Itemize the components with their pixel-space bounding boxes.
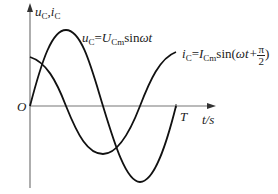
- y-axis-label: uC,iC: [35, 5, 60, 21]
- voltage-eq-arg: ωt: [139, 30, 152, 45]
- y-label-i-sub: C: [54, 11, 60, 21]
- voltage-equation: uC=UCmsinωt: [82, 31, 152, 47]
- current-eq-equals: =: [192, 46, 199, 61]
- period-label: T: [180, 110, 187, 123]
- current-eq-amp-sub: Cm: [203, 53, 216, 63]
- origin-label: O: [17, 100, 26, 113]
- current-eq-fraction: π2: [257, 44, 265, 67]
- voltage-eq-amp-sub: Cm: [111, 37, 124, 47]
- voltage-eq-equals: =: [95, 30, 102, 45]
- current-eq-arg: ωt+: [236, 46, 258, 61]
- voltage-eq-func: sin: [124, 30, 139, 45]
- current-eq-close: ): [265, 46, 269, 61]
- current-eq-func: sin(: [216, 46, 236, 61]
- x-axis-arrow-icon: [207, 103, 216, 109]
- voltage-eq-amp: U: [102, 30, 111, 45]
- fraction-denominator: 2: [257, 56, 265, 67]
- x-axis-label: t/s: [202, 113, 214, 126]
- y-axis-arrow-icon: [27, 3, 33, 12]
- current-equation: iC=ICmsin(ωt+π2): [182, 44, 269, 67]
- x-label-text: t/s: [202, 112, 214, 127]
